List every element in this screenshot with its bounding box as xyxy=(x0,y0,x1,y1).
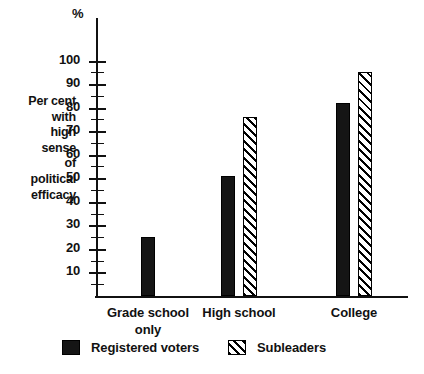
y-axis-tick: 90 xyxy=(89,84,106,86)
y-axis-minor-tick xyxy=(91,190,104,191)
y-axis-title-line: political xyxy=(0,172,76,188)
y-axis-tick: 10 xyxy=(89,272,106,274)
y-axis-tick: 60 xyxy=(89,155,106,157)
y-axis-minor-tick xyxy=(91,261,104,262)
y-axis-minor-tick xyxy=(91,214,104,215)
legend-entry-registered-voters: Registered voters xyxy=(62,340,199,355)
y-axis-tick-label: 10 xyxy=(66,263,80,278)
y-axis-tick-label: 80 xyxy=(66,99,80,114)
y-axis-tick-label: 20 xyxy=(66,240,80,255)
y-axis-title-line: high xyxy=(0,125,76,141)
bar-subleaders xyxy=(243,117,257,296)
y-axis-tick-label: 30 xyxy=(66,216,80,231)
y-axis-title-line: with xyxy=(0,110,76,126)
bar-chart: % Per cent with high sense of political … xyxy=(0,0,424,374)
y-axis-tick-label: 100 xyxy=(59,52,80,67)
percent-unit-label: % xyxy=(72,6,84,21)
chart-legend: Registered voters Subleaders xyxy=(0,340,424,368)
y-axis-title-line: sense xyxy=(0,141,76,157)
plot-area: 102030405060708090100 xyxy=(96,18,408,298)
legend-entry-subleaders: Subleaders xyxy=(228,340,326,355)
y-axis-minor-tick xyxy=(91,237,104,238)
x-axis-category-label-line: only xyxy=(78,321,218,338)
y-axis-minor-tick xyxy=(91,72,104,73)
y-axis-minor-tick xyxy=(91,143,104,144)
y-axis-title-line: efficacy xyxy=(0,188,76,204)
y-axis-minor-tick xyxy=(91,119,104,120)
x-axis-category-label: College xyxy=(284,304,424,321)
y-axis-tick: 100 xyxy=(89,61,106,63)
y-axis-tick: 20 xyxy=(89,249,106,251)
hatched-square-swatch xyxy=(228,340,246,355)
bar-registered-voters xyxy=(221,176,235,296)
y-axis-minor-tick xyxy=(91,284,104,285)
y-axis-minor-tick xyxy=(91,96,104,97)
x-axis-line xyxy=(95,296,408,298)
solid-square-swatch xyxy=(62,340,80,355)
y-axis-title-line: of xyxy=(0,156,76,172)
y-axis-tick-label: 40 xyxy=(66,193,80,208)
y-axis-tick-label: 90 xyxy=(66,75,80,90)
y-axis-tick-label: 70 xyxy=(66,122,80,137)
y-axis-tick: 80 xyxy=(89,108,106,110)
y-axis-tick-label: 60 xyxy=(66,146,80,161)
x-axis-category-label-line: College xyxy=(284,304,424,321)
y-axis-tick: 40 xyxy=(89,202,106,204)
y-axis-tick: 50 xyxy=(89,178,106,180)
y-axis-tick: 70 xyxy=(89,131,106,133)
legend-label: Subleaders xyxy=(257,340,326,355)
bar-registered-voters xyxy=(336,103,350,296)
y-axis-title: Per cent with high sense of political ef… xyxy=(0,94,76,203)
legend-label: Registered voters xyxy=(91,340,199,355)
bar-subleaders xyxy=(358,72,372,296)
bar-registered-voters xyxy=(141,237,155,296)
y-axis-minor-tick xyxy=(91,166,104,167)
y-axis-title-line: Per cent xyxy=(0,94,76,110)
y-axis-tick: 30 xyxy=(89,225,106,227)
y-axis-tick-label: 50 xyxy=(66,169,80,184)
